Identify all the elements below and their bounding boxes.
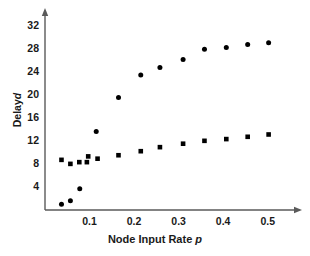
data-point: [245, 42, 250, 47]
data-point: [138, 149, 143, 154]
data-point: [224, 137, 229, 142]
x-tick-label: 0.3: [164, 215, 194, 227]
data-point: [94, 129, 99, 134]
y-tick-label: 24: [17, 65, 39, 77]
y-axis-title-symbol: d: [11, 93, 23, 99]
data-markers: [59, 40, 271, 206]
x-tick-label: 0.4: [208, 215, 238, 227]
data-point: [68, 198, 73, 203]
data-point: [86, 154, 91, 159]
data-point: [181, 57, 186, 62]
x-tick-label: 0.1: [75, 215, 105, 227]
x-tick-label: 0.2: [119, 215, 149, 227]
axis-lines: [42, 8, 302, 213]
y-axis-title-text: Delay: [11, 99, 23, 127]
data-point: [68, 162, 73, 167]
y-tick-label: 8: [17, 157, 39, 169]
data-point: [202, 139, 207, 144]
data-point: [116, 95, 121, 100]
y-tick-label: 4: [17, 180, 39, 192]
x-axis-arrow-icon: [294, 207, 302, 213]
y-axis-title: Delayd: [11, 80, 23, 140]
data-point: [181, 141, 186, 146]
data-point: [77, 160, 82, 165]
data-point: [59, 202, 64, 207]
y-tick-label: 32: [17, 19, 39, 31]
data-point: [77, 186, 82, 191]
x-axis-title-text: Node Input Rate: [108, 233, 192, 245]
data-point: [85, 160, 90, 165]
data-point: [59, 158, 64, 163]
y-axis-arrow-icon: [42, 8, 48, 16]
scatter-chart: 48121620242832 0.10.20.30.40.5 Delayd No…: [0, 0, 310, 256]
data-point: [116, 153, 121, 158]
data-point: [245, 134, 250, 139]
x-axis-title-symbol: p: [195, 233, 202, 245]
data-point: [224, 45, 229, 50]
data-point: [266, 40, 271, 45]
data-point: [266, 132, 271, 137]
x-tick-label: 0.5: [253, 215, 283, 227]
data-point: [138, 73, 143, 78]
data-point: [95, 156, 100, 161]
data-point: [202, 47, 207, 52]
y-tick-label: 28: [17, 42, 39, 54]
x-axis-title: Node Input Rate p: [0, 233, 310, 245]
data-point: [157, 65, 162, 70]
data-point: [158, 145, 163, 150]
